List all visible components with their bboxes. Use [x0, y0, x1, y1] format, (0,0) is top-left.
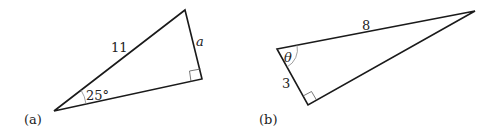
theta-label: θ [284, 50, 292, 65]
caption-a: (a) [24, 112, 42, 127]
triangle-b: 8 3 θ (b) [259, 11, 475, 127]
triangle-a-shape [54, 10, 202, 111]
triangle-a: 11 a 25° (a) [24, 10, 204, 127]
diagram-canvas: 11 a 25° (a) 8 3 θ (b) [0, 0, 498, 136]
hypotenuse-label-a: 11 [111, 40, 128, 55]
triangle-b-shape [277, 11, 475, 105]
angle-label-a: 25° [86, 88, 109, 103]
side-3-label: 3 [282, 76, 290, 91]
hypotenuse-label-b: 8 [362, 18, 370, 33]
caption-b: (b) [259, 112, 277, 127]
side-a-label: a [196, 34, 204, 49]
